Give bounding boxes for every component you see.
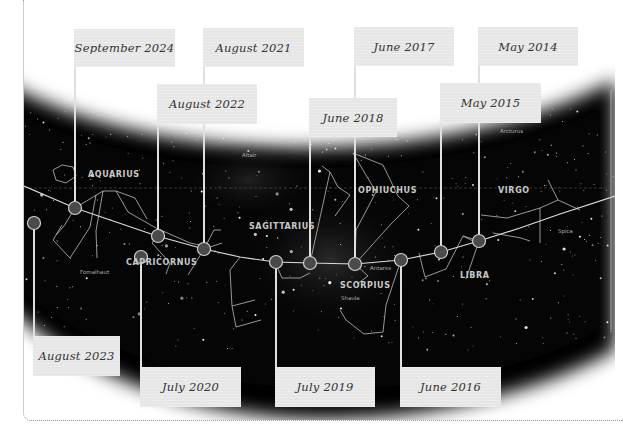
star-label: Shaula bbox=[341, 295, 360, 301]
constellation-label: LIBRA bbox=[460, 271, 490, 280]
star-label: Altair bbox=[242, 152, 257, 158]
date-label: September 2024 bbox=[74, 29, 175, 67]
date-label: August 2021 bbox=[203, 28, 304, 67]
date-label: June 2017 bbox=[354, 27, 454, 66]
constellation-label: SCORPIUS bbox=[340, 281, 391, 290]
star-label: Antares bbox=[370, 265, 391, 271]
constellation-label: VIRGO bbox=[498, 186, 530, 195]
date-label: May 2014 bbox=[478, 27, 578, 66]
date-label: May 2015 bbox=[440, 83, 541, 123]
date-label: August 2022 bbox=[157, 84, 257, 124]
constellation-label: AQUARIUS bbox=[88, 170, 140, 179]
star-label: Arcturus bbox=[500, 128, 523, 134]
constellation-label: OPHIUCHUS bbox=[358, 186, 417, 195]
date-label: August 2023 bbox=[33, 336, 120, 376]
star-label: Spica bbox=[558, 228, 573, 234]
date-label: June 2018 bbox=[309, 98, 397, 137]
date-label: June 2016 bbox=[400, 367, 501, 407]
constellation-label: SAGITTARIUS bbox=[249, 222, 315, 231]
star-label: Fomalhaut bbox=[80, 269, 109, 275]
date-label: July 2019 bbox=[275, 367, 375, 407]
date-label: July 2020 bbox=[140, 367, 241, 407]
constellation-label: CAPRICORNUS bbox=[126, 258, 197, 267]
